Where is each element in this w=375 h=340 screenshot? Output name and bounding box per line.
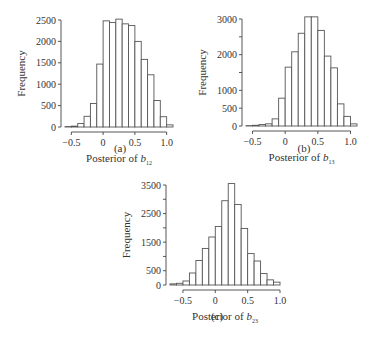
histogram-bar	[305, 17, 312, 126]
histogram-bar	[78, 124, 84, 127]
histogram-bar	[259, 125, 266, 126]
y-tick-label: 0	[156, 280, 161, 291]
histogram-bar	[318, 30, 325, 126]
histogram-bar	[84, 116, 90, 127]
histogram-bars	[246, 17, 357, 126]
histogram-bar	[272, 119, 279, 126]
histogram-bar	[202, 248, 208, 285]
histogram-bar	[337, 104, 344, 126]
histogram-bar	[298, 33, 305, 126]
histogram-bar	[135, 41, 141, 127]
histogram-bar	[154, 100, 160, 127]
caption-c: (c)	[187, 310, 247, 322]
y-axis-label: Frequency	[15, 50, 27, 97]
histogram-panel-c: 0500150025003500−0.500.51.0Posterior of …	[95, 170, 295, 340]
histogram-panel-b: 0500100020003000−0.500.51.0Posterior of …	[190, 0, 375, 170]
y-axis-label: Frequency	[196, 49, 208, 96]
histogram-bar	[228, 184, 234, 285]
histogram-bar	[324, 56, 331, 126]
histogram-bar	[235, 204, 241, 285]
histogram-bar	[71, 126, 77, 127]
histogram-bar	[267, 280, 273, 285]
y-tick-label: 2500	[36, 15, 56, 26]
histogram-panel-a: 05001000150020002500−0.500.51.0Posterior…	[0, 0, 190, 170]
y-tick-label: 1500	[141, 237, 161, 248]
x-tick-label: −0.5	[174, 295, 192, 306]
x-axis-label: Posterior of b12	[86, 152, 152, 166]
y-tick-label: 1500	[36, 57, 56, 68]
histogram-bars	[65, 19, 173, 127]
histogram-bar	[331, 68, 338, 126]
histogram-bar	[254, 261, 260, 285]
histogram-bar	[148, 75, 154, 127]
histogram-bar	[116, 19, 122, 127]
histogram-bar	[97, 64, 103, 127]
histogram-bars	[170, 184, 280, 285]
x-tick-label: −0.5	[243, 136, 261, 147]
histogram-bar	[344, 116, 351, 126]
y-axis-label: Frequency	[120, 211, 132, 258]
histogram-bar	[292, 52, 299, 126]
y-tick-label: 2000	[36, 36, 56, 47]
histogram-bar	[253, 125, 260, 126]
histogram-bar	[350, 124, 357, 126]
histogram-bar	[261, 274, 267, 285]
histogram-bar	[90, 103, 96, 127]
histogram-bar	[170, 284, 176, 285]
caption-b: (b)	[274, 142, 334, 154]
x-tick-label: 1.0	[274, 295, 287, 306]
histogram-bar	[141, 59, 147, 127]
y-tick-label: 2000	[217, 49, 237, 60]
histogram-bar	[209, 237, 215, 285]
histogram-bar	[311, 17, 318, 126]
histogram-bar	[279, 98, 286, 126]
histogram-bar	[160, 117, 166, 127]
histogram-bar	[109, 23, 115, 127]
y-tick-label: 0	[51, 122, 56, 133]
histogram-bar	[167, 125, 173, 127]
y-tick-label: 2500	[141, 208, 161, 219]
histogram-bar	[222, 201, 228, 285]
histogram-bar	[176, 283, 182, 285]
y-tick-label: 500	[146, 265, 161, 276]
x-tick-label: 0	[213, 295, 218, 306]
histogram-bar	[215, 226, 221, 285]
y-tick-label: 500	[222, 103, 237, 114]
histogram-bar	[122, 24, 128, 127]
histogram-bar	[266, 124, 273, 126]
x-tick-label: 0.5	[241, 295, 254, 306]
histogram-bar	[241, 228, 247, 285]
histogram-bar	[183, 281, 189, 285]
y-tick-label: 3000	[217, 14, 237, 25]
histogram-bar	[103, 21, 109, 127]
histogram-bar	[248, 254, 254, 285]
x-tick-label: 1.0	[160, 137, 173, 148]
histogram-bar	[285, 67, 292, 126]
x-tick-label: −0.5	[62, 137, 80, 148]
histogram-bar	[129, 26, 135, 127]
y-tick-label: 0	[232, 121, 237, 132]
histogram-bar	[274, 282, 280, 285]
y-tick-label: 1000	[217, 85, 237, 96]
y-tick-label: 1000	[36, 79, 56, 90]
y-tick-label: 3500	[141, 180, 161, 191]
histogram-bar	[196, 260, 202, 285]
histogram-bar	[189, 273, 195, 285]
x-tick-label: 1.0	[344, 136, 357, 147]
y-tick-label: 500	[41, 100, 56, 111]
caption-a: (a)	[90, 142, 150, 154]
